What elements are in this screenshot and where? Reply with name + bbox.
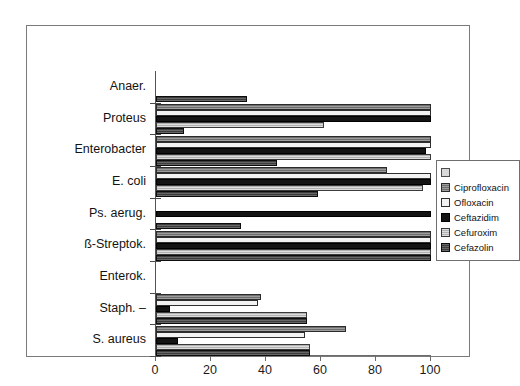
legend-swatch-icon: [441, 168, 450, 177]
legend-item: Ofloxacin: [441, 195, 515, 210]
category-label: S. aureus: [36, 332, 146, 346]
legend-item: [441, 165, 515, 180]
category-label: Enterok.: [36, 269, 146, 283]
bar: [156, 318, 307, 324]
category-label: Enterobacter: [36, 142, 146, 156]
category-axis-tick: [150, 261, 161, 262]
bar: [156, 332, 305, 338]
category-label: E. coli: [36, 174, 146, 188]
bar: [156, 223, 241, 229]
x-axis-tick-label: 60: [300, 363, 340, 377]
legend-swatch-icon: [441, 243, 450, 252]
x-axis-tick: [210, 355, 211, 361]
legend-item: Ciprofloxacin: [441, 180, 515, 195]
legend-label: Cefazolin: [454, 243, 494, 253]
legend-label: Cefuroxim: [454, 228, 497, 238]
legend-label: Ceftazidim: [454, 213, 499, 223]
plot-area: 020406080100 Anaer.ProteusEnterobacterE.…: [155, 71, 430, 356]
bar: [156, 211, 431, 217]
category-label: Staph. –: [36, 301, 146, 315]
legend-label: Ciprofloxacin: [454, 183, 509, 193]
bar: [156, 255, 431, 261]
bar: [156, 191, 318, 197]
bar: [156, 96, 247, 102]
legend-swatch-icon: [441, 213, 450, 222]
chart-frame: 020406080100 Anaer.ProteusEnterobacterE.…: [26, 25, 470, 357]
category-label: Ps. aerug.: [36, 206, 146, 220]
x-axis-tick: [320, 355, 321, 361]
x-axis-tick-label: 0: [135, 363, 175, 377]
legend-swatch-icon: [441, 198, 450, 207]
x-axis-tick-label: 20: [190, 363, 230, 377]
bar: [156, 160, 277, 166]
chart-legend: CiprofloxacinOfloxacinCeftazidimCefuroxi…: [436, 160, 520, 261]
legend-swatch-icon: [441, 183, 450, 192]
x-axis-tick: [430, 355, 431, 361]
legend-label: Ofloxacin: [454, 198, 494, 208]
x-axis-tick: [265, 355, 266, 361]
x-axis-tick: [375, 355, 376, 361]
category-label: ß-Streptok.: [36, 237, 146, 251]
x-axis-tick-label: 100: [410, 363, 450, 377]
legend-swatch-icon: [441, 228, 450, 237]
category-axis-tick: [150, 198, 161, 199]
x-axis-tick-label: 80: [355, 363, 395, 377]
x-axis-tick-label: 40: [245, 363, 285, 377]
legend-item: Ceftazidim: [441, 210, 515, 225]
category-axis-tick: [150, 356, 161, 357]
category-label: Proteus: [36, 111, 146, 125]
bar: [156, 128, 184, 134]
legend-item: Cefazolin: [441, 240, 515, 255]
category-label: Anaer.: [36, 79, 146, 93]
legend-item: Cefuroxim: [441, 225, 515, 240]
bar: [156, 300, 258, 306]
bar: [156, 350, 310, 356]
